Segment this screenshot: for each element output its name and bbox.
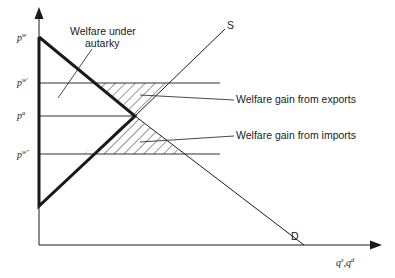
imports-label: Welfare gain from imports xyxy=(236,129,356,141)
welfare-diagram: pw pw' pa pw" qs,qd S D Welfare under au… xyxy=(0,0,395,278)
demand-label: D xyxy=(291,230,299,242)
autarky-label-line1: Welfare under xyxy=(70,25,136,37)
autarky-welfare-triangle xyxy=(39,37,135,206)
x-axis-arrow-icon xyxy=(370,241,382,250)
x-axis-label: qs,qd xyxy=(336,256,355,268)
pw-prime-label: pw' xyxy=(16,76,28,88)
pa-label: pa xyxy=(16,109,25,121)
supply-curve xyxy=(135,29,225,116)
pw-label: pw xyxy=(16,31,27,43)
y-axis-arrow-icon xyxy=(35,7,44,19)
exports-gain-area xyxy=(94,83,172,116)
autarky-label-line2: autarky xyxy=(85,37,120,49)
pw-double-prime-label: pw" xyxy=(16,148,29,160)
exports-label: Welfare gain from exports xyxy=(236,93,356,105)
supply-label: S xyxy=(227,19,234,31)
